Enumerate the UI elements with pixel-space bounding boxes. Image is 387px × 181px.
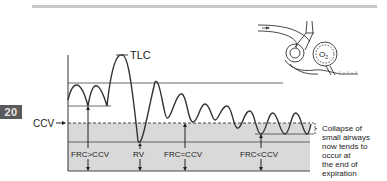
ccv-label: CCV	[33, 118, 54, 129]
collapse-bracket	[312, 123, 318, 134]
ccv-arrowhead-icon	[62, 121, 66, 125]
frc-lt-ccv-label: FRC<CCV	[240, 150, 279, 159]
svg-text:now tends to: now tends to	[322, 142, 368, 151]
o2-label: O2	[319, 50, 328, 60]
svg-text:expiration: expiration	[322, 169, 357, 178]
below-ccv-shade	[68, 123, 310, 171]
alveolus-inset-illustration	[258, 21, 358, 75]
svg-text:the end of: the end of	[322, 160, 358, 169]
svg-text:Collapse of: Collapse of	[322, 124, 363, 133]
fluid-dots	[339, 71, 356, 73]
rv-label: RV	[133, 150, 145, 159]
svg-text:occur at: occur at	[322, 151, 351, 160]
tlc-label: TLC	[130, 49, 151, 61]
collapse-annotation: Collapse of small airways now tends to o…	[322, 124, 370, 178]
lung-volume-diagram: TLC CCV FRC>CCV RV FRC=CCV FRC<CCV Colla…	[0, 0, 387, 181]
arrow-up-icon	[86, 106, 90, 110]
svg-text:small airways: small airways	[322, 133, 370, 142]
frc-gt-ccv-label: FRC>CCV	[71, 150, 110, 159]
frc-eq-ccv-label: FRC=CCV	[164, 150, 203, 159]
